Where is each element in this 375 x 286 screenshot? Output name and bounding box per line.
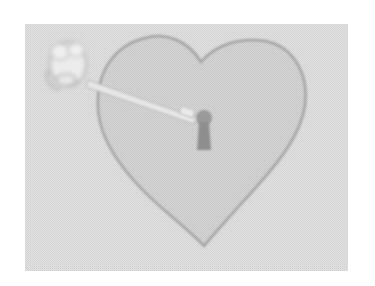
image-frame xyxy=(0,0,375,286)
heart-key-photo xyxy=(25,24,348,271)
